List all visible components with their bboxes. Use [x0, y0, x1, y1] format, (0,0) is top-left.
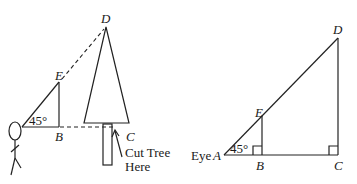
tree-crown — [84, 27, 129, 123]
segment-AD — [224, 38, 338, 155]
angle-label: 45° — [230, 141, 248, 156]
right-angle-C — [329, 146, 338, 155]
label-eye: Eye — [191, 148, 211, 163]
right-angle-B — [253, 146, 262, 155]
dashed-sight-ED — [62, 29, 104, 79]
right-figure: D E Eye A B C 45° — [191, 22, 343, 173]
note-here: Here — [125, 159, 150, 174]
label-C: C — [334, 158, 343, 173]
label-A: A — [212, 148, 221, 163]
label-B: B — [55, 129, 63, 144]
person-head — [9, 122, 21, 140]
left-figure: D E B C 45° Cut Tree Here — [9, 11, 170, 175]
person-leg-left — [11, 158, 15, 175]
person-leg-right — [15, 158, 21, 168]
label-D: D — [100, 11, 111, 26]
diagram-canvas: D E B C 45° Cut Tree Here D E Eye A B C … — [0, 0, 357, 184]
note-cut-tree: Cut Tree — [125, 145, 170, 160]
angle-label: 45° — [29, 113, 47, 128]
label-D: D — [332, 22, 343, 37]
tree-trunk — [103, 124, 112, 165]
label-C: C — [126, 129, 135, 144]
label-B: B — [256, 158, 264, 173]
label-E: E — [54, 68, 63, 83]
label-E: E — [254, 105, 263, 120]
